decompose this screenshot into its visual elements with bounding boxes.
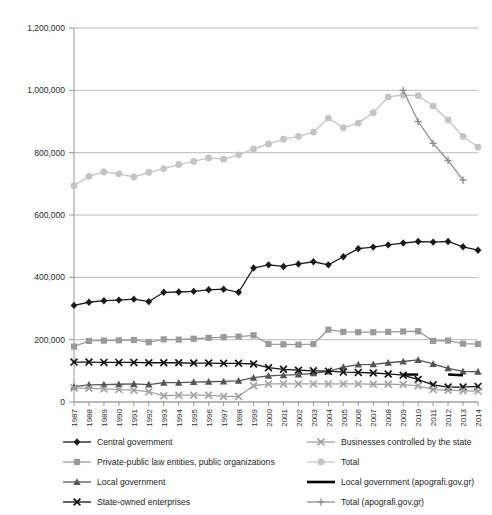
legend-item-label: Local government (apografi.gov.gr) bbox=[341, 477, 474, 487]
x-axis-label: 1992 bbox=[145, 408, 154, 426]
legend-key bbox=[306, 455, 336, 469]
x-axis-label: 1997 bbox=[220, 408, 229, 426]
series-6 bbox=[403, 375, 463, 376]
x-axis-label: 2002 bbox=[295, 408, 304, 426]
x-axis-label: 1990 bbox=[115, 408, 124, 426]
chart-legend: Central governmentPrivate-public law ent… bbox=[0, 428, 492, 515]
data-point bbox=[71, 302, 78, 309]
series-line bbox=[74, 241, 478, 305]
legend-item[interactable]: Businesses controlled by the state bbox=[306, 432, 492, 452]
x-axis-label: 2011 bbox=[429, 408, 438, 426]
data-point bbox=[280, 136, 287, 143]
data-point bbox=[318, 459, 325, 466]
data-point bbox=[191, 336, 197, 342]
x-axis-label: 2009 bbox=[399, 408, 408, 426]
x-axis-label: 1996 bbox=[205, 408, 214, 426]
legend-key bbox=[62, 455, 92, 469]
data-point bbox=[205, 155, 212, 162]
x-axis-label: 2001 bbox=[280, 408, 289, 426]
legend-column-left: Central governmentPrivate-public law ent… bbox=[62, 432, 306, 512]
legend-marker-icon bbox=[306, 435, 336, 449]
data-point bbox=[445, 117, 452, 124]
x-axis-label: 1987 bbox=[70, 408, 79, 426]
data-point bbox=[115, 296, 122, 303]
data-point bbox=[340, 253, 347, 260]
data-point bbox=[280, 263, 287, 270]
data-point bbox=[250, 146, 257, 153]
data-point bbox=[101, 338, 107, 344]
data-point bbox=[101, 169, 108, 176]
data-point bbox=[385, 241, 392, 248]
x-axis-label: 1988 bbox=[85, 408, 94, 426]
data-point bbox=[340, 124, 347, 131]
data-point bbox=[146, 339, 152, 345]
data-point bbox=[116, 337, 122, 343]
data-point bbox=[160, 289, 167, 296]
data-point bbox=[86, 173, 93, 180]
x-axis-label: 1998 bbox=[235, 408, 244, 426]
legend-key bbox=[306, 495, 336, 509]
data-point bbox=[325, 261, 332, 268]
y-axis-label: 800,000 bbox=[34, 148, 65, 158]
series-1 bbox=[71, 327, 481, 350]
legend-marker-icon bbox=[306, 495, 336, 509]
y-axis-label: 1,200,000 bbox=[27, 23, 65, 33]
y-axis-label: 200,000 bbox=[34, 335, 65, 345]
legend-marker-icon bbox=[62, 455, 92, 469]
data-point bbox=[280, 341, 286, 347]
data-point bbox=[115, 170, 122, 177]
data-point bbox=[310, 341, 316, 347]
legend-item[interactable]: Central government bbox=[62, 432, 306, 452]
legend-item-label: Local government bbox=[97, 477, 165, 487]
data-point bbox=[86, 338, 92, 344]
legend-marker-icon bbox=[62, 435, 92, 449]
legend-key bbox=[306, 475, 336, 489]
data-point bbox=[414, 356, 421, 363]
data-point bbox=[71, 182, 78, 189]
legend-item[interactable]: State-owned enterprises bbox=[62, 492, 306, 512]
legend-item[interactable]: Total bbox=[306, 452, 492, 472]
data-point bbox=[355, 245, 362, 252]
data-point bbox=[430, 338, 436, 344]
data-point bbox=[355, 120, 362, 127]
data-point bbox=[235, 333, 241, 339]
y-axis-label: 400,000 bbox=[34, 272, 65, 282]
data-point bbox=[265, 341, 271, 347]
series-5 bbox=[71, 92, 482, 189]
legend-marker-icon bbox=[306, 455, 336, 469]
data-point bbox=[265, 261, 272, 268]
series-line bbox=[448, 375, 463, 376]
data-point bbox=[385, 329, 391, 335]
legend-item-label: Total (apografi.gov.gr) bbox=[341, 497, 424, 507]
y-axis-label: 600,000 bbox=[34, 210, 65, 220]
legend-item[interactable]: Local government bbox=[62, 472, 306, 492]
data-point bbox=[445, 338, 451, 344]
legend-key bbox=[62, 475, 92, 489]
data-point bbox=[460, 133, 467, 140]
legend-item-label: Private-public law entities, public orga… bbox=[97, 457, 275, 467]
data-point bbox=[370, 329, 376, 335]
data-point bbox=[430, 238, 437, 245]
data-point bbox=[340, 329, 346, 335]
line-chart-svg: 0200,000400,000600,000800,0001,000,0001,… bbox=[0, 0, 492, 430]
x-axis-label: 2006 bbox=[354, 408, 363, 426]
legend-item[interactable]: Private-public law entities, public orga… bbox=[62, 452, 306, 472]
data-point bbox=[190, 158, 197, 165]
x-axis-label: 2004 bbox=[325, 408, 334, 426]
series-0 bbox=[71, 238, 482, 309]
x-axis-label: 2008 bbox=[384, 408, 393, 426]
legend-item[interactable]: Local government (apografi.gov.gr) bbox=[306, 472, 492, 492]
series-line bbox=[74, 95, 478, 186]
x-axis-label: 1989 bbox=[100, 408, 109, 426]
data-point bbox=[370, 243, 377, 250]
data-point bbox=[145, 298, 152, 305]
series-7 bbox=[400, 87, 467, 184]
data-point bbox=[71, 343, 77, 349]
data-point bbox=[161, 336, 167, 342]
legend-key bbox=[62, 495, 92, 509]
data-point bbox=[295, 342, 301, 348]
data-point bbox=[355, 329, 361, 335]
legend-item[interactable]: Total (apografi.gov.gr) bbox=[306, 492, 492, 512]
x-axis-label: 1999 bbox=[250, 408, 259, 426]
data-point bbox=[325, 327, 331, 333]
